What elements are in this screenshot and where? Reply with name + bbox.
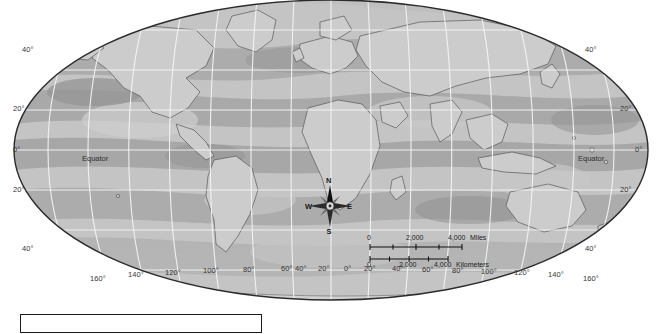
longitude-label-60w: 60° xyxy=(281,265,293,273)
longitude-label-140w: 140° xyxy=(128,271,144,279)
scale-km-tick-4000: 4,000 xyxy=(434,261,452,268)
scale-km-unit: Kilometers xyxy=(456,261,489,268)
world-map-graphic xyxy=(0,0,663,334)
latitude-label-left-40s: 40° xyxy=(22,245,34,253)
latitude-label-left-20s: 20° xyxy=(13,186,25,194)
longitude-label-120e: 120° xyxy=(514,269,530,277)
longitude-label-160e: 160° xyxy=(583,275,599,283)
map-screenshot: 40° 20° 0° 20° 40° 40° 20° 0° 20° 40° Eq… xyxy=(0,0,663,334)
scale-bar-group: 0 2,000 4,000 Miles xyxy=(366,234,502,268)
scale-km-tick-0: 0 xyxy=(367,261,371,268)
compass-rose: N S E W xyxy=(304,176,356,236)
compass-west-label: W xyxy=(305,202,312,211)
longitude-label-100w: 100° xyxy=(203,267,219,275)
scale-km-tick-2000: 2,000 xyxy=(399,261,417,268)
longitude-label-20w: 20° xyxy=(318,265,330,273)
longitude-label-0: 0° xyxy=(344,265,351,273)
compass-north-label: N xyxy=(326,176,331,185)
compass-south-label: S xyxy=(327,227,332,236)
longitude-label-140e: 140° xyxy=(548,271,564,279)
scale-miles-tick-0: 0 xyxy=(367,234,371,241)
latitude-label-left-20n: 20° xyxy=(13,105,25,113)
compass-east-label: E xyxy=(347,202,352,211)
latitude-label-left-0: 0° xyxy=(13,146,20,154)
latitude-label-right-0: 0° xyxy=(635,146,642,154)
equator-label-right: Equator xyxy=(578,154,604,163)
latitude-label-right-40s: 40° xyxy=(585,245,597,253)
latitude-label-right-40n: 40° xyxy=(585,46,597,54)
scale-miles-tick-2000: 2,000 xyxy=(406,234,424,241)
equator-label-left: Equator xyxy=(82,154,108,163)
legend-box xyxy=(20,314,262,333)
longitude-label-160w: 160° xyxy=(90,275,106,283)
longitude-label-120w: 120° xyxy=(165,269,181,277)
map-body xyxy=(14,0,648,300)
scale-bar-miles xyxy=(370,244,462,250)
scale-miles-tick-4000: 4,000 xyxy=(448,234,466,241)
scale-miles-unit: Miles xyxy=(470,234,486,241)
latitude-label-right-20n: 20° xyxy=(620,105,632,113)
latitude-label-left-40n: 40° xyxy=(22,46,34,54)
scale-bar-graphic xyxy=(366,243,502,277)
latitude-label-right-20s: 20° xyxy=(620,186,632,194)
longitude-label-40w: 40° xyxy=(295,265,307,273)
longitude-label-80w: 80° xyxy=(243,266,255,274)
